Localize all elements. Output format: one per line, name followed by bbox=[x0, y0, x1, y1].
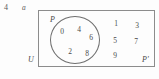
set-element: 5 bbox=[111, 37, 119, 45]
set-element: 1 bbox=[112, 20, 120, 28]
venn-diagram-figure: 4 a P P' U 04628 13579 bbox=[0, 0, 159, 79]
set-element: 8 bbox=[83, 50, 91, 58]
set-element: 9 bbox=[111, 52, 119, 60]
question-number: 4 bbox=[4, 4, 8, 12]
set-element: 7 bbox=[132, 38, 140, 46]
question-part-label: a bbox=[22, 4, 26, 12]
set-p-complement-label: P' bbox=[142, 56, 149, 64]
set-element: 4 bbox=[75, 26, 83, 34]
set-p-label: P bbox=[50, 16, 55, 24]
set-element: 2 bbox=[66, 48, 74, 56]
set-element: 0 bbox=[58, 28, 66, 36]
set-element: 6 bbox=[87, 34, 95, 42]
universal-set-label: U bbox=[28, 56, 34, 64]
set-element: 3 bbox=[133, 22, 141, 30]
